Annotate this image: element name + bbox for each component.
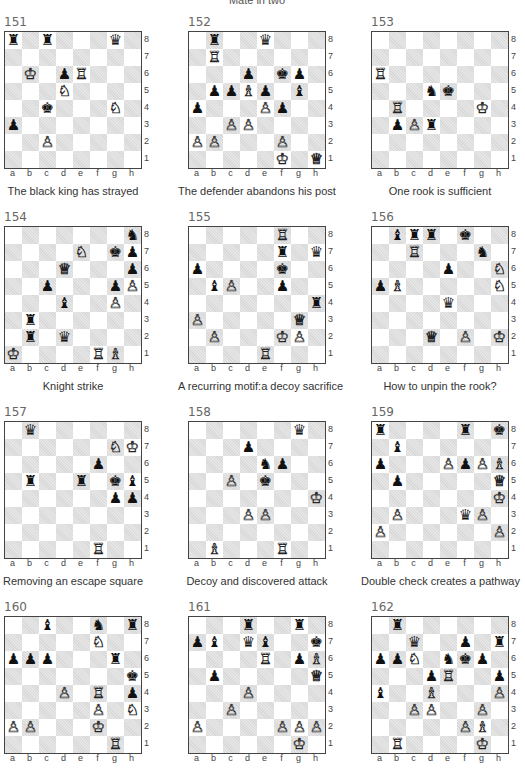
square-f8 bbox=[274, 32, 291, 49]
square-c4 bbox=[406, 685, 423, 702]
square-e4 bbox=[73, 100, 90, 117]
square-c5: ♟ bbox=[39, 278, 56, 295]
square-h5: ♝ bbox=[124, 473, 141, 490]
square-g8 bbox=[474, 422, 491, 439]
square-b8: ♜ bbox=[206, 32, 223, 49]
white-pawn-icon: ♙ bbox=[225, 278, 238, 295]
square-d7 bbox=[240, 244, 257, 261]
square-e8 bbox=[440, 32, 457, 49]
square-a7 bbox=[372, 244, 389, 261]
square-a7 bbox=[189, 244, 206, 261]
file-label: g bbox=[290, 558, 307, 570]
square-h4 bbox=[308, 100, 325, 117]
puzzle-caption: The defender abandons his post bbox=[178, 185, 336, 197]
rank-label: 5 bbox=[144, 277, 154, 294]
square-d4: ♙ bbox=[56, 685, 73, 702]
square-g1 bbox=[474, 541, 491, 558]
square-e5: ♟ bbox=[257, 83, 274, 100]
square-d8 bbox=[56, 32, 73, 49]
rank-label: 8 bbox=[144, 226, 154, 243]
rank-label: 3 bbox=[511, 506, 521, 523]
square-b7: ♝ bbox=[206, 634, 223, 651]
puzzle-number: 155 bbox=[188, 210, 211, 224]
square-c1 bbox=[406, 541, 423, 558]
square-c1 bbox=[223, 346, 240, 363]
rank-label: 2 bbox=[328, 133, 338, 150]
rank-label: 2 bbox=[328, 718, 338, 735]
puzzle-number: 160 bbox=[4, 600, 27, 614]
square-e1 bbox=[73, 151, 90, 168]
square-f8: ♚ bbox=[457, 227, 474, 244]
square-c4 bbox=[39, 490, 56, 507]
square-a4 bbox=[372, 100, 389, 117]
square-e8 bbox=[440, 422, 457, 439]
rank-label: 5 bbox=[511, 82, 521, 99]
square-h7: ♟ bbox=[124, 244, 141, 261]
puzzle-158: 158♛♟♞♟♙♚♔♙♙♗♖87654321abcdefghDecoy and … bbox=[188, 405, 356, 599]
square-e3 bbox=[440, 507, 457, 524]
square-a4: ♝ bbox=[372, 685, 389, 702]
square-c5: ♟ bbox=[223, 83, 240, 100]
square-c3 bbox=[39, 117, 56, 134]
square-c3 bbox=[406, 507, 423, 524]
square-d4 bbox=[240, 490, 257, 507]
square-d1 bbox=[240, 541, 257, 558]
square-e4: ♙ bbox=[257, 100, 274, 117]
square-f8: ♜ bbox=[457, 422, 474, 439]
black-pawn-icon: ♟ bbox=[442, 261, 455, 278]
square-c6 bbox=[39, 66, 56, 83]
square-f5 bbox=[457, 83, 474, 100]
black-bishop-icon: ♝ bbox=[374, 685, 387, 702]
puzzle-caption: One rook is sufficient bbox=[361, 185, 519, 197]
square-f8 bbox=[90, 32, 107, 49]
square-a3 bbox=[5, 702, 22, 719]
file-label: d bbox=[239, 753, 256, 765]
rank-label: 4 bbox=[328, 99, 338, 116]
black-king-icon: ♚ bbox=[276, 261, 289, 278]
square-f2 bbox=[90, 134, 107, 151]
square-e3 bbox=[73, 312, 90, 329]
square-f5 bbox=[90, 668, 107, 685]
black-rook-icon: ♜ bbox=[126, 617, 139, 634]
file-label: a bbox=[371, 753, 388, 765]
square-a7 bbox=[372, 439, 389, 456]
square-e8 bbox=[440, 617, 457, 634]
white-rook-icon: ♖ bbox=[276, 227, 289, 244]
square-c6 bbox=[39, 456, 56, 473]
square-e4 bbox=[257, 295, 274, 312]
black-pawn-icon: ♟ bbox=[476, 651, 489, 668]
square-f8 bbox=[274, 422, 291, 439]
square-f3 bbox=[90, 117, 107, 134]
file-label: d bbox=[55, 558, 72, 570]
file-label: e bbox=[256, 753, 273, 765]
black-pawn-icon: ♟ bbox=[374, 651, 387, 668]
square-h4 bbox=[491, 295, 508, 312]
square-a5 bbox=[5, 83, 22, 100]
file-label: c bbox=[38, 558, 55, 570]
black-bishop-icon: ♝ bbox=[58, 295, 71, 312]
square-c6 bbox=[406, 456, 423, 473]
square-h6 bbox=[308, 261, 325, 278]
file-label: h bbox=[307, 363, 324, 375]
square-b4: ♖ bbox=[389, 100, 406, 117]
white-pawn-icon: ♙ bbox=[374, 524, 387, 541]
square-e8 bbox=[440, 227, 457, 244]
square-h8: ♚ bbox=[491, 422, 508, 439]
square-h6: ♟ bbox=[124, 261, 141, 278]
white-rook-icon: ♖ bbox=[259, 346, 272, 363]
white-pawn-icon: ♙ bbox=[442, 456, 455, 473]
square-c4 bbox=[223, 685, 240, 702]
square-h8 bbox=[308, 422, 325, 439]
rank-label: 3 bbox=[144, 311, 154, 328]
square-e2 bbox=[73, 524, 90, 541]
square-a8 bbox=[189, 617, 206, 634]
square-e5 bbox=[440, 473, 457, 490]
square-e5 bbox=[73, 83, 90, 100]
white-pawn-icon: ♙ bbox=[7, 719, 20, 736]
puzzle-156: 156♝♜♜♚♖♞♟♘♟♗♘♛♕♙♔87654321abcdefghHow to… bbox=[371, 210, 525, 404]
black-king-icon: ♚ bbox=[493, 422, 506, 439]
white-rook-icon: ♖ bbox=[208, 49, 221, 66]
square-b7 bbox=[206, 439, 223, 456]
square-a4 bbox=[189, 685, 206, 702]
rank-label: 1 bbox=[144, 150, 154, 167]
